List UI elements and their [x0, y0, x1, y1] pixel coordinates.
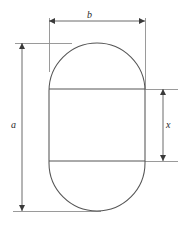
capsule-dimension-diagram [0, 0, 185, 229]
diagram-canvas: b a x [0, 0, 185, 229]
dimension-label-b: b [87, 10, 92, 20]
dimension-label-x: x [166, 120, 170, 130]
dimension-label-a: a [11, 120, 16, 130]
capsule-shape [49, 43, 145, 211]
